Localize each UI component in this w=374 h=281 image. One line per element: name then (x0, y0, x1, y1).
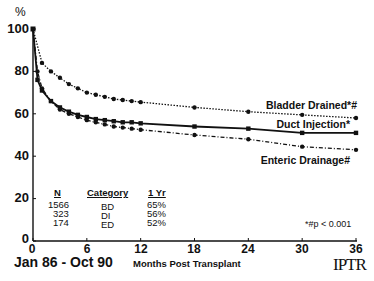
table-row-ed-cat: ED (101, 219, 114, 230)
chart-plot (0, 0, 374, 281)
data-point-marker (103, 95, 107, 99)
data-point-marker (192, 105, 196, 109)
data-point-marker (49, 69, 53, 73)
data-point-marker (85, 90, 89, 94)
table-header-category: Category (87, 187, 128, 198)
data-point-marker (112, 124, 116, 128)
table-row-ed-n: 174 (53, 217, 69, 228)
data-point-marker (300, 144, 304, 148)
legend-duct-injection: Duct Injection* (276, 118, 350, 130)
data-point-marker (121, 125, 125, 129)
x-tick-36: 36 (344, 242, 368, 256)
legend-bladder-drained: Bladder Drained*# (266, 99, 357, 111)
data-point-marker (129, 99, 133, 103)
data-point-marker (94, 93, 98, 97)
x-axis-title: Months Post Transplant (133, 258, 241, 269)
data-point-marker (94, 120, 98, 124)
y-unit-label: % (15, 5, 26, 19)
data-point-marker (138, 128, 142, 132)
p-value-note: *#p < 0.001 (305, 219, 351, 229)
data-point-marker (58, 76, 62, 80)
y-tick-20: 20 (3, 190, 29, 205)
table-header-1yr: 1 Yr (148, 187, 166, 198)
series-lines (31, 27, 359, 153)
data-point-marker (35, 69, 39, 73)
y-tick-80: 80 (3, 63, 29, 78)
y-tick-100: 100 (3, 21, 29, 36)
date-range: Jan 86 - Oct 90 (14, 254, 113, 270)
x-tick-12: 12 (129, 242, 153, 256)
data-point-marker (300, 113, 304, 117)
data-point-marker (129, 120, 133, 124)
x-tick-30: 30 (290, 242, 314, 256)
data-point-marker (40, 86, 44, 90)
data-point-marker (246, 126, 250, 130)
data-point-marker (85, 118, 89, 122)
data-point-marker (354, 131, 358, 135)
series-line-2 (33, 29, 356, 150)
table-row-ed-yr: 52% (147, 217, 166, 228)
x-tick-18: 18 (182, 242, 206, 256)
data-point-marker (76, 86, 80, 90)
legend-enteric-drainage: Enteric Drainage# (261, 154, 350, 166)
data-point-marker (138, 100, 142, 104)
y-tick-60: 60 (3, 106, 29, 121)
iptr-logo: IPTR (333, 255, 366, 275)
data-point-marker (112, 119, 116, 123)
data-point-marker (354, 116, 358, 120)
data-point-marker (35, 78, 39, 82)
data-point-marker (192, 133, 196, 137)
data-point-marker (103, 122, 107, 126)
data-point-marker (40, 61, 44, 65)
data-point-marker (354, 148, 358, 152)
table-header-n: N (54, 187, 61, 198)
data-point-marker (129, 126, 133, 130)
y-tick-40: 40 (3, 148, 29, 163)
data-point-marker (246, 109, 250, 113)
data-point-marker (246, 137, 250, 141)
data-point-marker (121, 98, 125, 102)
data-point-marker (67, 82, 71, 86)
data-point-marker (58, 107, 62, 111)
data-point-marker (192, 124, 196, 128)
data-point-marker (103, 118, 107, 122)
data-point-marker (67, 112, 71, 116)
data-point-marker (49, 99, 53, 103)
data-point-marker (76, 115, 80, 119)
data-point-marker (138, 121, 142, 125)
origin-marker (31, 27, 36, 32)
data-point-marker (121, 120, 125, 124)
x-tick-24: 24 (236, 242, 260, 256)
data-point-marker (112, 97, 116, 101)
data-point-marker (300, 131, 304, 135)
